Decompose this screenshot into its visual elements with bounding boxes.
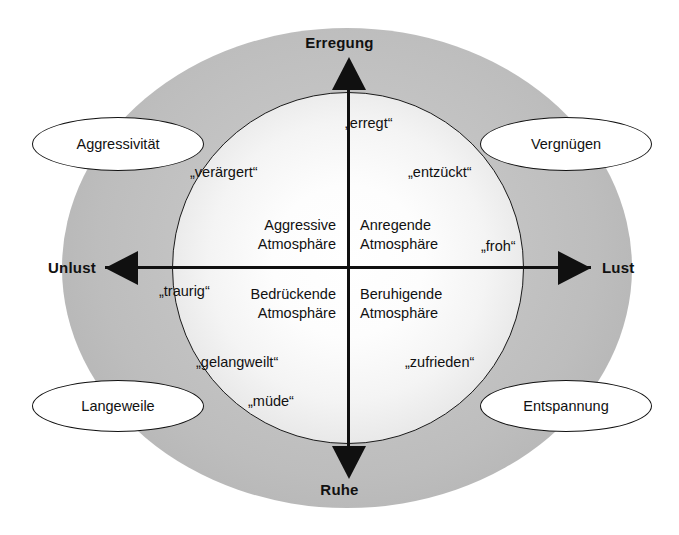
quadrant-label-upper-right: Anregende Atmosphäre — [360, 216, 480, 254]
axis-label-lust: Lust — [602, 259, 634, 276]
emotion-label-zufrieden: „zufrieden“ — [405, 354, 474, 370]
emotion-label-gelangweilt: „gelangweilt“ — [196, 354, 278, 370]
quadrant-line-1: Beruhigende — [360, 285, 486, 304]
quadrant-line-2: Atmosphäre — [360, 235, 480, 254]
callout-label: Vergnügen — [531, 136, 601, 152]
emotion-label-entzueckt: „entzückt“ — [408, 164, 472, 180]
axis-label-ruhe: Ruhe — [0, 481, 679, 498]
quadrant-line-2: Atmosphäre — [360, 304, 486, 323]
callout-label: Entspannung — [523, 398, 608, 414]
quadrant-line-2: Atmosphäre — [222, 304, 336, 323]
emotion-label-veraergert: „verärgert“ — [190, 164, 258, 180]
emotion-circumplex-diagram: Erregung Ruhe Unlust Lust Aggressive Atm… — [0, 0, 679, 535]
arrow-right-icon — [558, 251, 591, 285]
arrow-left-icon — [105, 251, 138, 285]
callout-label: Aggressivität — [76, 136, 159, 152]
callout-entspannung: Entspannung — [480, 380, 652, 432]
quadrant-line-1: Aggressive — [228, 216, 336, 235]
axis-label-erregung: Erregung — [0, 34, 679, 51]
quadrant-line-2: Atmosphäre — [228, 235, 336, 254]
arrow-down-icon — [332, 446, 366, 479]
quadrant-label-lower-left: Bedrückende Atmosphäre — [222, 285, 336, 323]
cropped-figure-caption — [0, 0, 679, 5]
callout-langeweile: Langeweile — [32, 380, 204, 432]
emotion-label-traurig: „traurig“ — [159, 283, 210, 299]
emotion-label-froh: „froh“ — [481, 238, 516, 254]
callout-label: Langeweile — [81, 398, 154, 414]
quadrant-line-1: Bedrückende — [222, 285, 336, 304]
emotion-label-erregt: „erregt“ — [345, 115, 393, 131]
arrow-up-icon — [332, 57, 366, 90]
axis-label-unlust: Unlust — [48, 259, 96, 276]
callout-aggressivitaet: Aggressivität — [32, 117, 204, 171]
quadrant-line-1: Anregende — [360, 216, 480, 235]
quadrant-label-upper-left: Aggressive Atmosphäre — [228, 216, 336, 254]
quadrant-label-lower-right: Beruhigende Atmosphäre — [360, 285, 486, 323]
callout-vergnuegen: Vergnügen — [480, 117, 652, 171]
emotion-label-muede: „müde“ — [248, 393, 294, 409]
